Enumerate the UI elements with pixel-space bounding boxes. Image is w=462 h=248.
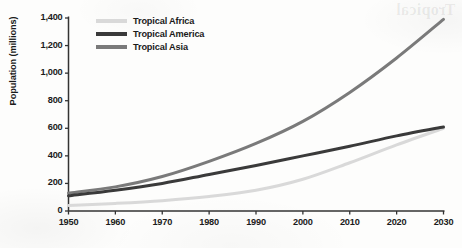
y-axis-tick-label: 600 [23,122,63,132]
x-axis-tick-label: 1970 [142,217,182,227]
y-axis-tick-label: 800 [23,95,63,105]
legend-label: Tropical Asia [133,42,188,52]
legend-label: Tropical Africa [133,16,194,26]
x-axis-tick-label: 1950 [49,217,89,227]
legend-item: Tropical Asia [96,40,204,53]
y-axis-tick-label: 200 [23,177,63,187]
x-axis-tick-label: 1980 [189,217,229,227]
x-axis-tick-label: 2000 [283,217,323,227]
legend-label: Tropical America [133,29,204,39]
chart-legend: Tropical AfricaTropical AmericaTropical … [96,14,204,53]
y-axis-tick-label: 1,200 [23,40,63,50]
x-axis-tick-label: 1960 [95,217,135,227]
x-axis-tick-label: 1990 [236,217,276,227]
legend-color-swatch [96,45,127,49]
legend-color-swatch [96,19,127,23]
legend-item: Tropical America [96,27,204,40]
y-axis-tick-label: 400 [23,150,63,160]
line-chart-plot [0,0,462,248]
y-axis-tick-label: 0 [23,205,63,215]
x-axis-tick-label: 2030 [424,217,462,227]
x-axis-tick-label: 2010 [330,217,370,227]
x-axis-tick-label: 2020 [377,217,417,227]
y-axis-tick-label: 1,000 [23,67,63,77]
legend-item: Tropical Africa [96,14,204,27]
chart-figure: Tropical Population (millions) 020040060… [0,0,462,248]
legend-color-swatch [96,32,127,36]
y-axis-tick-label: 1,400 [23,12,63,22]
